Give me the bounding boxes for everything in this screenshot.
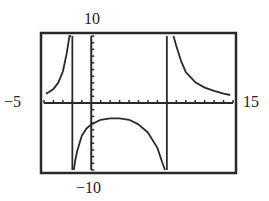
graph-screen [0,0,269,201]
